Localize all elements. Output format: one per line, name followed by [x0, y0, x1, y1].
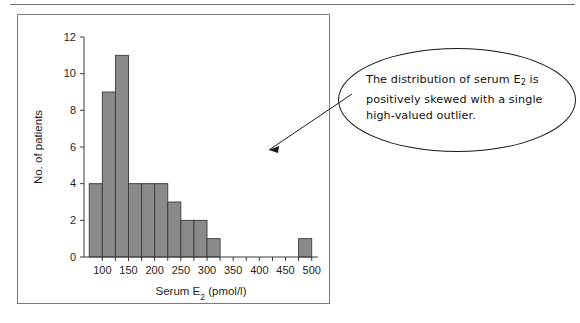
callout-text-part-1b: is [526, 73, 539, 86]
histogram-bar [102, 92, 115, 257]
callout-text-part-2: positively skewed with a single [366, 93, 543, 106]
histogram-bar [115, 55, 128, 257]
histogram-panel: 024681012100150200250300350400450500Seru… [17, 14, 330, 304]
x-axis-tick-label: 200 [145, 264, 163, 276]
y-axis-tick-label: 12 [64, 31, 76, 43]
callout-text-part-1: The distribution of serum E [366, 73, 521, 86]
x-axis-tick-label: 150 [119, 264, 137, 276]
histogram-bar [181, 220, 194, 257]
figure-page: 024681012100150200250300350400450500Seru… [0, 0, 580, 323]
x-axis-tick-label: 100 [93, 264, 111, 276]
y-axis-tick-label: 2 [70, 214, 76, 226]
y-axis-tick-label: 0 [70, 251, 76, 263]
x-axis-tick-label: 350 [224, 264, 242, 276]
histogram-chart: 024681012100150200250300350400450500Seru… [18, 15, 329, 303]
y-axis-tick-label: 6 [70, 141, 76, 153]
histogram-bar [194, 220, 207, 257]
x-axis-tick-label: 300 [198, 264, 216, 276]
callout-text: The distribution of serum E2 is positive… [366, 72, 552, 125]
y-axis-tick-label: 4 [70, 177, 76, 189]
y-axis-title: No. of patients [32, 110, 44, 184]
histogram-bar [207, 239, 220, 257]
histogram-bar [299, 239, 312, 257]
x-axis-tick-label: 450 [276, 264, 294, 276]
x-axis-title: Serum E2 (pmol/l) [155, 285, 246, 302]
histogram-bar [128, 184, 141, 257]
x-axis-tick-label: 400 [250, 264, 268, 276]
callout-text-part-3: high-valued outlier. [366, 109, 476, 122]
y-axis-tick-label: 8 [70, 104, 76, 116]
x-axis-tick-label: 250 [172, 264, 190, 276]
callout-annotation: The distribution of serum E2 is positive… [338, 48, 576, 152]
histogram-bar [89, 184, 102, 257]
histogram-bar [155, 184, 168, 257]
y-axis-tick-label: 10 [64, 67, 76, 79]
x-axis-tick-label: 500 [303, 264, 321, 276]
histogram-bar [168, 202, 181, 257]
histogram-bar [142, 184, 155, 257]
top-divider-rule [10, 4, 575, 5]
